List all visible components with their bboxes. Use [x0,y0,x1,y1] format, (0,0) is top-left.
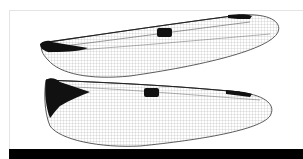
hindwing [45,78,272,146]
forewing [40,14,279,77]
wings-illustration [0,0,303,159]
nodus-mark [157,28,172,37]
bottom-bar [9,149,303,159]
pterostigma [228,14,252,19]
nodus-mark [144,88,159,97]
